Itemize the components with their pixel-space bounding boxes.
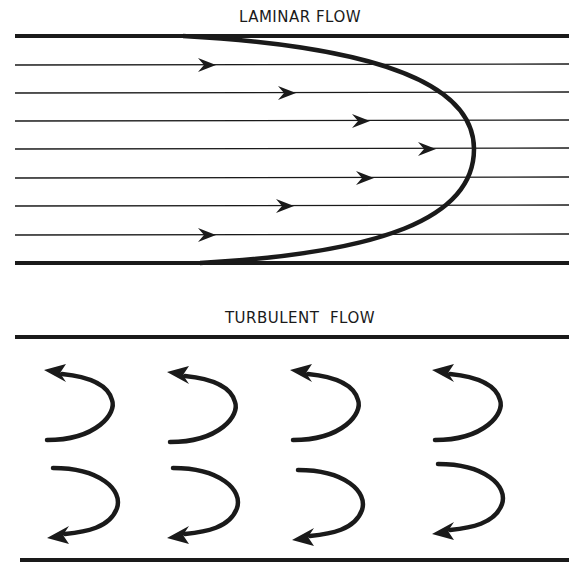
eddy-arc <box>170 376 236 442</box>
streamline <box>15 177 569 178</box>
flow-illustration <box>0 0 576 562</box>
eddy-arc <box>173 468 238 534</box>
streamline <box>15 234 569 235</box>
streamline <box>15 120 569 121</box>
streamline <box>15 148 569 149</box>
flow-arrow-icon <box>418 142 436 156</box>
streamline <box>15 64 569 65</box>
laminar-flow-section <box>15 36 569 263</box>
eddy-arc <box>293 374 359 440</box>
eddy-arc <box>298 470 363 536</box>
eddy-arc <box>47 374 113 440</box>
turbulent-flow-section <box>15 337 569 560</box>
eddy-arc <box>435 374 501 440</box>
eddy-arc <box>53 468 118 534</box>
eddy-arc <box>438 464 503 530</box>
flow-diagram: LAMINAR FLOW TURBULENT FLOW <box>0 0 576 562</box>
